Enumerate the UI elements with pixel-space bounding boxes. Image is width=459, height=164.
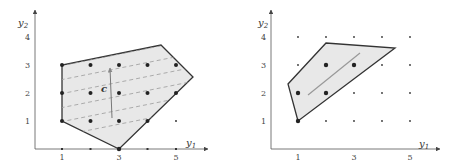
y-tick-3: 3	[261, 61, 266, 70]
y-tick-1: 1	[25, 117, 30, 126]
y-tick-2: 2	[25, 89, 30, 98]
x-tick-3: 3	[352, 153, 357, 162]
left-plot: 1 3 5 1 2 3 4 y1 y2	[17, 10, 220, 162]
y-tick-4: 4	[25, 33, 30, 42]
x-tick-5: 5	[408, 153, 413, 162]
vector-label-c: c	[101, 83, 107, 94]
x-tick-5: 5	[174, 153, 179, 162]
y-axis-label: y2	[257, 17, 269, 30]
right-plot: 1 3 5 1 2 3 4 y1 y2	[257, 10, 440, 162]
y-tick-2: 2	[261, 89, 266, 98]
y-axis-label: y2	[17, 17, 29, 30]
y-tick-4: 4	[261, 33, 266, 42]
feasible-region	[62, 45, 193, 149]
x-axis-label: y1	[185, 137, 196, 150]
y-tick-3: 3	[25, 61, 30, 70]
x-tick-1: 1	[60, 153, 65, 162]
y-tick-1: 1	[261, 117, 266, 126]
feasible-region-hull	[288, 43, 395, 121]
x-tick-1: 1	[296, 153, 301, 162]
figure: 1 3 5 1 2 3 4 y1 y2	[0, 0, 459, 164]
x-tick-3: 3	[117, 153, 122, 162]
